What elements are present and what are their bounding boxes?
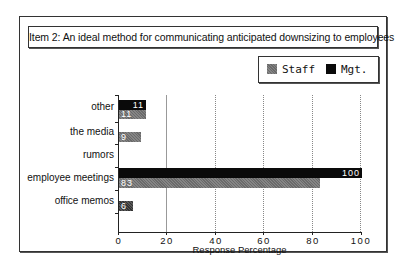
- staff-swatch-icon: [267, 64, 277, 74]
- value-other-staff: 11: [121, 109, 132, 120]
- x-axis-title: Response Percentage: [118, 244, 361, 255]
- gridline-60: [263, 95, 264, 232]
- value-meetings-staff: 83: [121, 178, 133, 189]
- category-label-the-media: the media: [70, 126, 114, 137]
- bar-meetings-staff: [119, 178, 320, 188]
- category-label-rumors: rumors: [83, 149, 114, 160]
- gridline-80: [312, 95, 313, 232]
- value-memos-staff: 6: [121, 201, 127, 212]
- category-label-other: other: [91, 101, 114, 112]
- plot-area: [118, 95, 361, 232]
- category-label-office-memos: office memos: [55, 195, 114, 206]
- gridline-100: [360, 95, 361, 232]
- gridline-40: [215, 95, 216, 232]
- value-media-staff: 9: [121, 132, 127, 143]
- mgt-swatch-icon: [326, 64, 336, 74]
- legend-staff-label: Staff: [282, 63, 315, 76]
- gridline-20: [166, 95, 167, 232]
- legend-mgt-label: Mgt.: [341, 63, 368, 76]
- y-axis: [118, 95, 119, 233]
- chart-title: Item 2: An ideal method for communicatin…: [28, 26, 378, 48]
- x-axis: [118, 232, 362, 233]
- category-label-employee-meetings: employee meetings: [27, 172, 114, 183]
- legend: Staff Mgt.: [258, 56, 379, 83]
